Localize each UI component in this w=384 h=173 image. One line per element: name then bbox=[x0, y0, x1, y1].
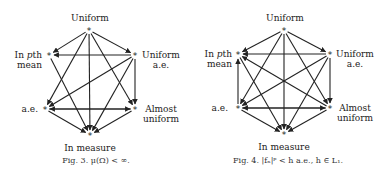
label-uniform: Uniform bbox=[69, 13, 111, 23]
arrow-uniform-to-pth_mean bbox=[53, 32, 85, 52]
arrow-uniform-to-pth_mean bbox=[242, 32, 280, 52]
arrow-pth_mean-to-in_measure bbox=[51, 59, 88, 131]
figure-3-caption: Fig. 3. μ(Ω) < ∞. bbox=[0, 156, 192, 165]
node-uniform_ae-asterisk-icon: * bbox=[133, 51, 138, 61]
node-pth_mean-asterisk-icon: * bbox=[236, 50, 241, 60]
label-pth-mean: In pthmean bbox=[192, 49, 232, 69]
label-in-measure: In measure bbox=[249, 142, 319, 152]
node-uniform-asterisk-icon: * bbox=[87, 26, 92, 36]
node-pth_mean-asterisk-icon: * bbox=[47, 51, 52, 61]
figure-4-caption: Fig. 4. |fₙ|ᵖ < h a.e., h ∈ L₁. bbox=[192, 156, 384, 165]
arrow-uniform-to-uniform_ae bbox=[288, 32, 326, 52]
arrow-almost_uniform-to-in_measure bbox=[94, 111, 131, 132]
label-pth-mean: In pthmean bbox=[4, 50, 42, 70]
arrow-almost_uniform-to-in_measure bbox=[288, 110, 326, 132]
figure-3: ****** Uniform In pthmean Uniforma.e. a.… bbox=[0, 0, 192, 173]
arrow-uniform-to-uniform_ae bbox=[93, 32, 131, 53]
label-almost-uniform: Almostuniform bbox=[140, 104, 182, 124]
arrow-ae-to-in_measure bbox=[241, 110, 279, 132]
node-ae-asterisk-icon: * bbox=[43, 105, 48, 115]
label-uniform-ae: Uniforma.e. bbox=[140, 50, 182, 70]
label-uniform-ae: Uniforma.e. bbox=[334, 49, 376, 69]
node-ae-asterisk-icon: * bbox=[236, 104, 241, 114]
node-in_measure-asterisk-icon: * bbox=[282, 130, 287, 140]
arrow-ae-to-in_measure bbox=[48, 111, 85, 132]
label-ae: a.e. bbox=[200, 103, 228, 113]
label-almost-uniform: Almostuniform bbox=[334, 103, 376, 123]
node-almost_uniform-asterisk-icon: * bbox=[133, 105, 138, 115]
label-in-measure: In measure bbox=[55, 143, 125, 153]
node-almost_uniform-asterisk-icon: * bbox=[328, 104, 333, 114]
label-ae: a.e. bbox=[10, 104, 38, 114]
node-in_measure-asterisk-icon: * bbox=[88, 131, 93, 141]
label-uniform: Uniform bbox=[264, 13, 306, 23]
figure-4: ****** Uniform In pthmean Uniforma.e. a.… bbox=[192, 0, 384, 173]
node-uniform_ae-asterisk-icon: * bbox=[328, 50, 333, 60]
node-uniform-asterisk-icon: * bbox=[282, 26, 287, 36]
